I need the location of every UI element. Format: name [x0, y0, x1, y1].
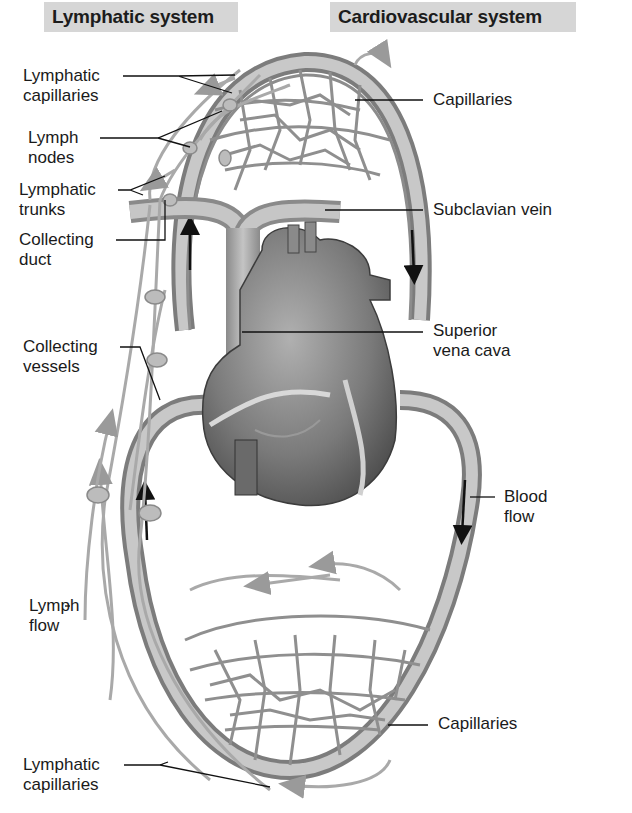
label-blood-flow: Bloodflow — [504, 487, 547, 527]
label-subclavian-vein: Subclavian vein — [433, 200, 552, 220]
label-collecting-duct: Collectingduct — [19, 230, 94, 270]
circulation-diagram — [0, 0, 632, 813]
label-lymph-flow: Lymphflow — [29, 596, 79, 636]
label-lymphatic-capillaries-bottom: Lymphaticcapillaries — [23, 755, 100, 795]
label-lymphatic-capillaries-top: Lymphaticcapillaries — [23, 66, 100, 106]
label-superior-vena-cava: Superiorvena cava — [433, 321, 511, 361]
label-lymph-nodes: Lymphnodes — [28, 128, 78, 168]
label-lymphatic-trunks: Lymphatictrunks — [19, 180, 96, 220]
label-capillaries-top: Capillaries — [433, 90, 512, 110]
label-capillaries-bottom: Capillaries — [438, 714, 517, 734]
label-collecting-vessels: Collectingvessels — [23, 337, 98, 377]
